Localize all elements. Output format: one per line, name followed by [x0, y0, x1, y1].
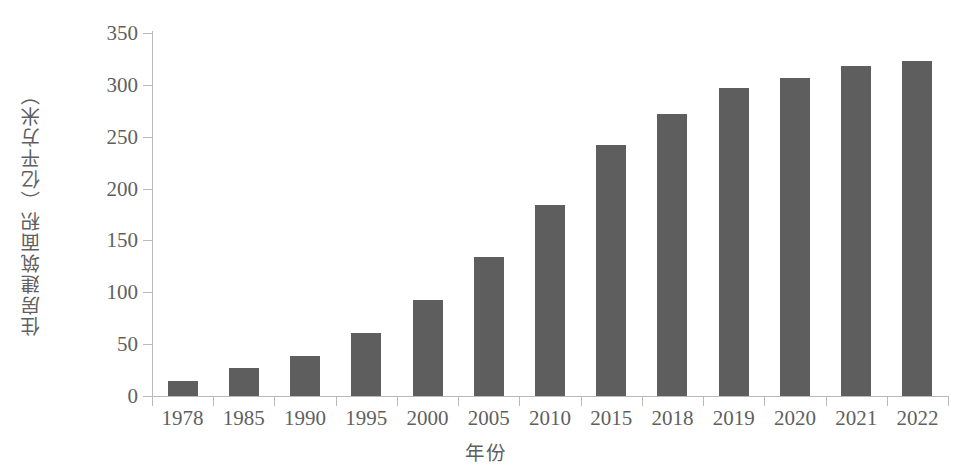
bar [351, 333, 381, 396]
bar-chart: 住房建筑面积（亿平方米） 050100150200250300350 19781… [0, 0, 971, 476]
y-tick-mark [143, 240, 152, 241]
bar [780, 78, 810, 396]
y-tick-label: 250 [82, 126, 138, 147]
y-tick-label: 50 [82, 334, 138, 355]
bar [168, 381, 198, 396]
bar [841, 66, 871, 396]
x-tick-mark [274, 397, 275, 406]
y-axis-title: 住房建筑面积（亿平方米） [14, 0, 48, 420]
x-tick-label: 1985 [223, 408, 265, 429]
x-tick-label: 2019 [713, 408, 755, 429]
x-tick-label: 2022 [896, 408, 938, 429]
bar [290, 356, 320, 396]
y-tick-mark [143, 137, 152, 138]
y-tick-label: 100 [82, 282, 138, 303]
bar [596, 145, 626, 396]
y-tick-label: 300 [82, 74, 138, 95]
x-tick-label: 1990 [284, 408, 326, 429]
x-tick-mark [948, 397, 949, 406]
x-axis-title: 年份 [0, 437, 971, 466]
x-tick-mark [458, 397, 459, 406]
x-tick-mark [336, 397, 337, 406]
x-tick-mark [397, 397, 398, 406]
x-tick-label: 1978 [162, 408, 204, 429]
x-tick-label: 2020 [774, 408, 816, 429]
x-tick-label: 1995 [345, 408, 387, 429]
y-tick-mark [143, 189, 152, 190]
x-tick-label: 2015 [590, 408, 632, 429]
x-axis-line [152, 396, 949, 397]
bar [413, 300, 443, 396]
y-tick-label: 0 [82, 386, 138, 407]
x-tick-label: 2000 [407, 408, 449, 429]
x-tick-label: 2021 [835, 408, 877, 429]
y-tick-label: 350 [82, 23, 138, 44]
x-tick-label: 2018 [651, 408, 693, 429]
bar [719, 88, 749, 396]
bar [474, 257, 504, 396]
x-tick-mark [642, 397, 643, 406]
y-tick-label: 200 [82, 178, 138, 199]
bar [535, 205, 565, 396]
x-tick-mark [764, 397, 765, 406]
x-tick-label: 2010 [529, 408, 571, 429]
bar [657, 114, 687, 396]
y-tick-label: 150 [82, 230, 138, 251]
bar [229, 368, 259, 396]
y-tick-mark [143, 33, 152, 34]
y-tick-mark [143, 85, 152, 86]
bars-layer [152, 33, 948, 396]
x-tick-mark [826, 397, 827, 406]
x-tick-mark [152, 397, 153, 406]
x-tick-mark [581, 397, 582, 406]
x-tick-mark [213, 397, 214, 406]
y-tick-mark [143, 344, 152, 345]
bar [902, 61, 932, 396]
y-tick-mark [143, 292, 152, 293]
x-tick-mark [519, 397, 520, 406]
y-axis-title-label: 住房建筑面积（亿平方米） [17, 84, 46, 336]
x-tick-label: 2005 [468, 408, 510, 429]
x-tick-mark [703, 397, 704, 406]
x-tick-mark [887, 397, 888, 406]
y-tick-mark [143, 396, 152, 397]
